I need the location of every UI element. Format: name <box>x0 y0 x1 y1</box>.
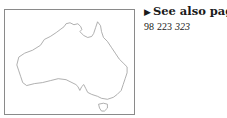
map-frame <box>4 9 135 115</box>
page-link[interactable]: 323 <box>175 21 190 32</box>
australia-map-outline <box>5 10 134 114</box>
see-also-heading: ▶See also pages <box>144 4 227 19</box>
page-references: 98223323 <box>144 20 227 34</box>
see-also-block: ▶See also pages 98223323 <box>144 4 227 34</box>
right-triangle-icon: ▶ <box>144 7 151 17</box>
page-link[interactable]: 98 <box>144 21 154 32</box>
page-link[interactable]: 223 <box>157 21 172 32</box>
